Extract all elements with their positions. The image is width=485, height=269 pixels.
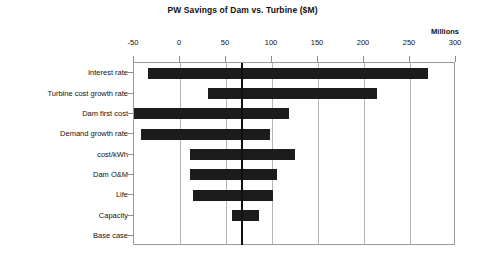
bar [148, 68, 429, 79]
bar [193, 190, 273, 201]
y-category-label: cost/kWh [97, 149, 128, 158]
bar [141, 129, 270, 140]
x-tick-label: 250 [403, 38, 416, 47]
y-axis-category-labels: Interest rateTurbine cost growth rateDam… [0, 62, 133, 245]
bar [232, 210, 259, 221]
y-category-label: Turbine cost growth rate [47, 88, 128, 97]
bars-layer [134, 63, 454, 244]
y-category-label: Base case [93, 230, 128, 239]
x-tick-label: 300 [449, 38, 462, 47]
y-category-label: Capacity [99, 210, 128, 219]
bar [134, 108, 289, 119]
bar [190, 169, 276, 180]
x-tick-label: 50 [221, 38, 229, 47]
y-category-label: Demand growth rate [60, 129, 128, 138]
tornado-chart: PW Savings of Dam vs. Turbine ($M) Milli… [0, 0, 485, 269]
x-axis: -50050100150200250300 [0, 0, 485, 62]
bar [208, 88, 377, 99]
x-tick-label: 150 [311, 38, 324, 47]
y-category-label: Life [116, 190, 128, 199]
base-case-reference-line [241, 63, 243, 245]
x-tick-label: 0 [177, 38, 181, 47]
y-category-label: Dam O&M [93, 169, 128, 178]
x-tick-mark [455, 56, 456, 62]
y-category-label: Dam first cost [82, 108, 128, 117]
x-tick-label: 200 [357, 38, 370, 47]
y-category-label: Interest rate [88, 68, 128, 77]
x-tick-label: 100 [265, 38, 278, 47]
plot-area [133, 62, 455, 245]
x-tick-label: -50 [128, 38, 139, 47]
